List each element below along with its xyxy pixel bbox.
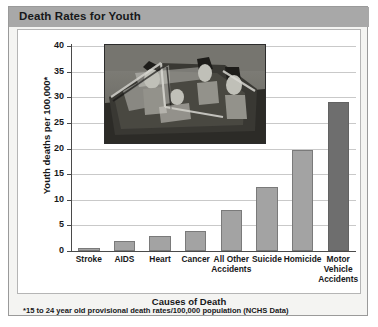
bar [114, 241, 135, 251]
y-axis-tick-label: 0 [34, 245, 64, 255]
y-axis-tick-label: 20 [34, 143, 64, 153]
y-axis-tick-label: 15 [34, 168, 64, 178]
bar [78, 248, 99, 251]
y-axis-tick-label: 40 [34, 40, 64, 50]
chart-title-bar: Death Rates for Youth [9, 7, 369, 27]
x-axis-tick-labels: StrokeAIDSHeartCancerAll Other Accidents… [71, 254, 356, 294]
plot-area: Youth deaths per 100,000* 05101520253035… [17, 29, 361, 294]
y-axis-tick-label: 30 [34, 91, 64, 101]
teens-in-convertible-photo [104, 44, 266, 144]
chart-footnote: *15 to 24 year old provisional death rat… [23, 306, 288, 315]
chart-title: Death Rates for Youth [19, 10, 141, 22]
bar [185, 231, 206, 252]
bar [328, 102, 349, 251]
y-axis-title: Youth deaths per 100,000* [41, 66, 52, 206]
y-axis-tick-label: 35 [34, 66, 64, 76]
x-axis-line [71, 251, 356, 252]
bar [221, 210, 242, 251]
y-axis-tick-label: 10 [34, 194, 64, 204]
x-axis-tick-label: Motor Vehicle Accidents [316, 254, 360, 284]
bar [149, 236, 170, 251]
y-axis-tick-label: 5 [34, 219, 64, 229]
y-axis-tick-label: 25 [34, 117, 64, 127]
bar [256, 187, 277, 251]
chart-figure: Death Rates for Youth Youth deaths per 1… [0, 0, 378, 327]
bar [292, 150, 313, 251]
chart-card: Death Rates for Youth Youth deaths per 1… [8, 6, 368, 316]
